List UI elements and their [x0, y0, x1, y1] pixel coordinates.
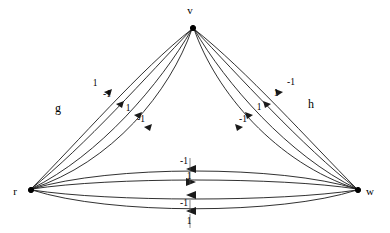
edge-weight-h-4: -1	[239, 114, 247, 124]
vertex-dot-w[interactable]	[355, 187, 360, 192]
bundle-label-h: h	[308, 97, 314, 111]
edge-h-2	[194, 29, 357, 189]
vertex-dot-v[interactable]	[190, 25, 195, 30]
edge-weight-base-3: -1	[180, 198, 188, 208]
vertex-label-w: w	[366, 185, 374, 197]
figure-canvas: v r w g h 1 -1 1 -1 -1 1 1 -1 -1 1 -1 1	[0, 0, 390, 233]
edge-weight-h-2: 1	[274, 88, 279, 98]
arrow-h-2	[263, 101, 271, 108]
vertex-dot-r[interactable]	[28, 187, 33, 192]
edge-h-3	[194, 29, 357, 189]
vertex-label-r: r	[13, 185, 17, 197]
arrow-h-4	[235, 124, 243, 131]
arrow-g-2	[116, 101, 124, 108]
edge-h-4	[194, 29, 357, 189]
edge-weight-g-4: -1	[137, 114, 145, 124]
edge-h-1	[194, 29, 357, 189]
edge-weight-g-1: 1	[93, 78, 98, 88]
edge-weight-h-3: 1	[257, 102, 262, 112]
edge-weight-base-4: 1	[187, 216, 192, 226]
edge-weight-base-2: 1	[187, 171, 192, 181]
edge-weight-g-3: 1	[126, 103, 131, 113]
edge-bundle-base	[32, 165, 357, 215]
graph-svg: v r w g h 1 -1 1 -1 -1 1 1 -1 -1 1 -1 1	[0, 0, 390, 233]
bundle-label-g: g	[55, 101, 61, 115]
edge-base-2	[32, 180, 357, 189]
edge-bundle-h	[194, 29, 357, 189]
edge-weight-g-2: -1	[103, 89, 111, 99]
arrow-base-4	[186, 207, 196, 215]
edge-weight-h-1: -1	[287, 77, 295, 87]
arrow-g-4	[144, 124, 152, 131]
edge-weight-base-1: -1	[180, 156, 188, 166]
vertex-label-v: v	[187, 4, 193, 16]
